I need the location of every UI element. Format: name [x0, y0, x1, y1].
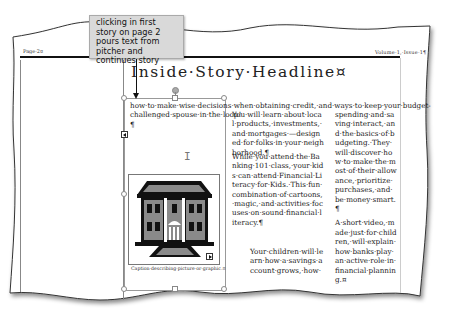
- text-cursor-icon: I: [184, 150, 191, 163]
- arrow-down-icon: [133, 93, 139, 99]
- building-icon: [129, 175, 219, 264]
- callout-arrow-line: [136, 59, 137, 95]
- resize-handle-mid-left[interactable]: [121, 191, 127, 197]
- story-paragraph: spending·and·saving·interact,·and·the·ba…: [335, 110, 397, 213]
- resize-handle-bottom-left[interactable]: [121, 286, 127, 292]
- story-paragraph: While·you·attend·the·Banking·101·class,·…: [232, 152, 324, 227]
- volume-issue-header: Volume·1,·Issue·1¶: [375, 49, 426, 55]
- page-number-header: Page·2¤: [23, 48, 43, 54]
- right-margin-guide: [400, 58, 401, 293]
- resize-handle-bottom-center[interactable]: [172, 286, 178, 292]
- left-margin-guide: [20, 60, 21, 292]
- previous-text-box-button[interactable]: [121, 131, 128, 138]
- resize-handle-bottom-right[interactable]: [221, 286, 227, 292]
- picture-caption[interactable]: Caption·describing·picture·or·graphic.¤: [131, 266, 225, 271]
- header-rule: [20, 56, 400, 58]
- next-text-box-button[interactable]: [206, 253, 213, 260]
- story-paragraph: Your·children·will·learn·how·a·savings·a…: [250, 247, 324, 275]
- story-paragraph: You·will·learn·about·local·products,·inv…: [232, 110, 324, 157]
- story-column-2-continued[interactable]: While·you·attend·the·Banking·101·class,·…: [232, 152, 324, 232]
- resize-handle-top-left[interactable]: [121, 95, 127, 101]
- story-column-1[interactable]: how·to·make·wise·decisions·when·obtainin…: [130, 101, 222, 134]
- story-paragraph: A·short·video,·made·just·for·children,·w…: [335, 218, 397, 284]
- story-column-3[interactable]: spending·and·saving·interact,·and·the·ba…: [335, 110, 397, 289]
- story-column-2-end[interactable]: Your·children·will·learn·how·a·savings·a…: [250, 247, 324, 280]
- annotation-callout: clicking in first story on page 2 pours …: [89, 15, 184, 59]
- picture-frame[interactable]: [128, 174, 220, 265]
- story-paragraph: how·to·make·wise·decisions·when·obtainin…: [130, 101, 222, 129]
- headline[interactable]: Inside·Story·Headline¤: [131, 63, 347, 81]
